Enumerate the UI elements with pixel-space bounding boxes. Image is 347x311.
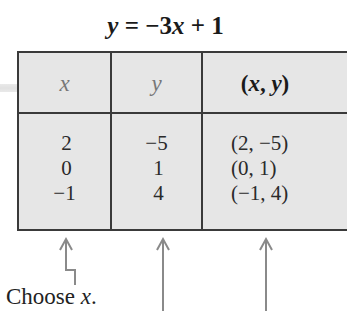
arrow-up-icon-x <box>60 239 75 285</box>
caption-var: x <box>81 284 91 309</box>
choose-x-caption: Choose x. <box>6 284 97 310</box>
arrow-up-icon-pair <box>260 239 272 311</box>
caption-suffix: . <box>91 284 97 309</box>
arrow-up-icon-y <box>157 239 169 311</box>
caption-prefix: Choose <box>6 284 81 309</box>
